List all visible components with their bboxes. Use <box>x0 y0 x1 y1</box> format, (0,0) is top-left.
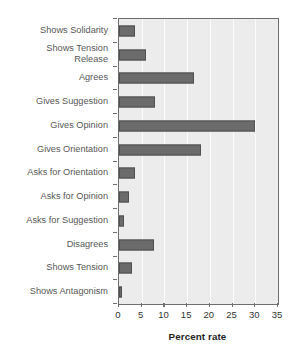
y-axis-tick <box>113 184 117 185</box>
y-axis-tick <box>113 232 117 233</box>
bar-row <box>119 114 278 138</box>
y-axis-tick-label: Gives Orientation <box>0 137 113 161</box>
bar <box>119 120 255 131</box>
y-axis-tick-label: Disagrees <box>0 232 113 256</box>
plot-area <box>118 18 279 305</box>
y-axis-tick <box>113 303 117 304</box>
y-axis-tick-label: Agrees <box>0 66 113 90</box>
bar-row <box>119 138 278 162</box>
x-axis-tick <box>118 303 119 307</box>
y-axis-tick-label: Gives Suggestion <box>0 89 113 113</box>
y-axis-tick <box>113 256 117 257</box>
bar-row <box>119 233 278 257</box>
y-axis-tick <box>113 208 117 209</box>
bar <box>119 215 124 226</box>
bar-row <box>119 162 278 186</box>
y-axis-tick <box>113 161 117 162</box>
y-axis-tick <box>113 66 117 67</box>
x-axis-tick <box>232 303 233 307</box>
bar-row <box>119 209 278 233</box>
y-axis-tick <box>113 42 117 43</box>
y-axis-tick <box>113 279 117 280</box>
y-axis-tick-label: Asks for Opinion <box>0 184 113 208</box>
bar-row <box>119 90 278 114</box>
x-axis-tick <box>186 303 187 307</box>
bar <box>119 73 194 84</box>
y-axis-tick <box>113 113 117 114</box>
bar <box>119 25 135 36</box>
bar <box>119 192 129 203</box>
y-axis-tick-label: Asks for Suggestion <box>0 208 113 232</box>
y-axis-tick <box>113 137 117 138</box>
x-axis-tick <box>254 303 255 307</box>
x-axis-title: Percent rate <box>118 331 277 342</box>
bar-row <box>119 185 278 209</box>
y-axis-tick <box>113 18 117 19</box>
bar-row <box>119 280 278 304</box>
y-axis-tick-label: Shows Tension <box>0 256 113 280</box>
bar <box>119 287 122 298</box>
y-axis-tick-label: Asks for Orientation <box>0 161 113 185</box>
bar <box>119 263 132 274</box>
bar <box>119 144 201 155</box>
y-axis-tick <box>113 89 117 90</box>
bar-row <box>119 19 278 43</box>
x-axis-tick-label: 35 <box>264 309 290 320</box>
x-axis-tick <box>277 303 278 307</box>
x-axis-tick <box>163 303 164 307</box>
y-axis-tick-label: Shows Solidarity <box>0 18 113 42</box>
x-axis-tick <box>209 303 210 307</box>
bars-layer <box>119 19 278 304</box>
y-axis-tick-label: Gives Opinion <box>0 113 113 137</box>
y-axis-tick-label: Shows Tension Release <box>0 42 113 66</box>
bar <box>119 97 155 108</box>
bar <box>119 49 146 60</box>
bar <box>119 168 135 179</box>
bar-chart: Shows Solidarity Shows Tension Release A… <box>0 0 294 355</box>
y-axis-labels: Shows Solidarity Shows Tension Release A… <box>0 18 113 303</box>
bar-row <box>119 257 278 281</box>
y-axis-tick-label: Shows Antagonism <box>0 279 113 303</box>
x-axis-tick <box>141 303 142 307</box>
bar-row <box>119 43 278 67</box>
bar-row <box>119 67 278 91</box>
bar <box>119 239 154 250</box>
